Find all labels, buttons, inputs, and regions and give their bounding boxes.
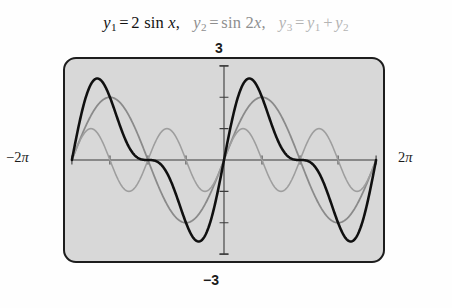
x-min-label: −2π [6,149,29,166]
equation-y2: y2=sin 2x, [193,13,266,33]
x-max-label: 2π [398,149,413,166]
equation-y1: y1=2 sin x, [103,13,180,33]
y-min-label: −3 [203,272,219,288]
equation-y3: y3=y1+y2 [279,13,349,33]
equation-caption: y1=2 sin x,y2=sin 2x,y3=y1+y2 [0,13,452,33]
y-max-label: 3 [215,40,223,56]
graph-figure: y1=2 sin x,y2=sin 2x,y3=y1+y2 −2π 2π 3 −… [0,0,452,308]
plot-canvas [65,59,383,261]
calculator-screen-panel [63,57,385,263]
